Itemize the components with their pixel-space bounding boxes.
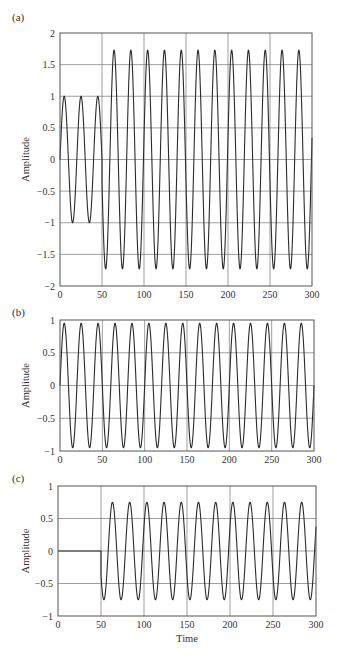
x-tick-label: 150 [180,619,195,630]
x-tick-label: 250 [263,289,278,300]
x-tick-label: 300 [307,454,322,465]
y-tick-label: 0.5 [41,513,54,524]
y-axis-label: Amplitude [20,363,31,408]
y-tick-label: −1 [44,217,55,228]
y-tick-label: −0.5 [37,186,55,197]
x-tick-label: 250 [264,454,279,465]
y-tick-labels: −1−0.500.51 [37,315,55,457]
chart-panel-b: (b)050100150200250300−1−0.500.51Amplitud… [12,306,322,465]
panel-label: (b) [12,306,25,319]
x-tick-label: 200 [221,289,236,300]
x-tick-label: 100 [137,454,152,465]
y-tick-label: 1 [50,315,55,326]
x-tick-label: 150 [179,289,194,300]
y-tick-label: 2 [50,28,55,39]
y-tick-label: −1 [44,446,55,457]
y-tick-labels: −1−0.500.51 [35,481,53,622]
x-tick-label: 0 [58,289,63,300]
figure: (a)050100150200250300−2−1.5−1−0.500.511.… [0,0,337,663]
x-tick-label: 50 [96,619,106,630]
x-tick-label: 0 [56,619,61,630]
x-tick-label: 200 [222,454,237,465]
x-tick-label: 50 [97,454,107,465]
y-tick-label: 1 [48,481,53,492]
x-tick-label: 300 [305,289,320,300]
x-tick-label: 150 [180,454,195,465]
y-axis-label: Amplitude [20,137,31,182]
x-tick-label: 250 [266,619,281,630]
x-tick-label: 50 [97,289,107,300]
y-tick-label: 0.5 [43,347,56,358]
x-tick-labels: 050100150200250300 [58,289,320,300]
y-tick-label: 0 [48,546,53,557]
x-tick-labels: 050100150200250300 [56,619,324,630]
y-tick-label: −1.5 [37,249,55,260]
y-tick-labels: −2−1.5−1−0.500.511.52 [37,28,55,292]
chart-panel-c: (c)050100150200250300−1−0.500.51Amplitud… [12,472,324,644]
y-tick-label: −2 [44,281,55,292]
panel-label: (c) [12,472,25,485]
y-axis-label: Amplitude [20,528,31,573]
y-tick-label: 0 [50,154,55,165]
x-tick-labels: 050100150200250300 [58,454,322,465]
y-tick-label: −1 [42,611,53,622]
y-tick-label: −0.5 [35,578,53,589]
chart-panel-a: (a)050100150200250300−2−1.5−1−0.500.511.… [12,11,320,300]
y-tick-label: 1.5 [43,59,56,70]
x-tick-label: 300 [309,619,324,630]
y-tick-label: 1 [50,91,55,102]
y-tick-label: 0 [50,380,55,391]
x-tick-label: 100 [137,289,152,300]
y-tick-label: 0.5 [43,122,56,133]
x-tick-label: 0 [58,454,63,465]
x-tick-label: 100 [137,619,152,630]
x-tick-label: 200 [223,619,238,630]
panel-label: (a) [12,11,25,24]
x-axis-label: Time [176,633,198,644]
y-tick-label: −0.5 [37,413,55,424]
